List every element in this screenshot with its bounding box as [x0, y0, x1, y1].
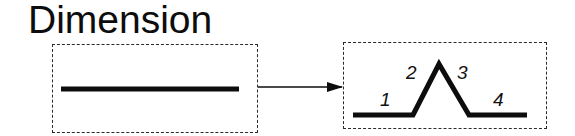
segment-label-2: 2	[406, 63, 417, 83]
diagram-graphics	[0, 0, 575, 136]
segment-label-4: 4	[493, 90, 504, 110]
segment-label-1: 1	[380, 90, 391, 110]
segment-label-3: 3	[457, 63, 468, 83]
